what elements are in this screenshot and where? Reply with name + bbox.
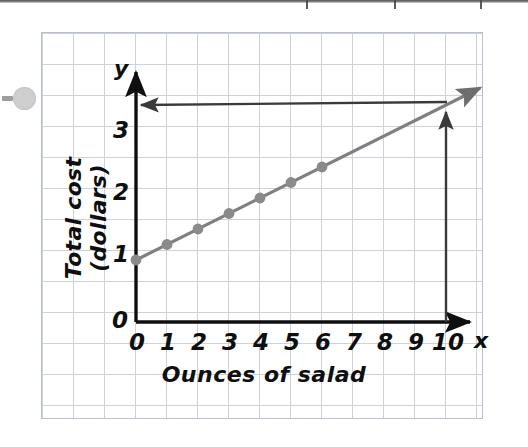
data-point [224,208,235,219]
horizontal-trace-arrow [141,102,447,105]
x-tick-label-0: 0 [129,331,145,354]
data-point [131,255,142,266]
x-tick-label-5: 5 [284,331,300,354]
x-axis-variable-label: x [474,330,488,352]
data-point [286,177,297,188]
x-tick-label-10: 10 [432,331,464,354]
x-axis-title: Ounces of salad [0,362,528,387]
x-tick-label-1: 1 [160,331,176,354]
x-tick-label-7: 7 [346,331,362,354]
origin-label: 0 [112,309,128,332]
cost-line [136,88,480,260]
x-tick-label-3: 3 [222,331,238,354]
x-tick-label-2: 2 [191,331,207,354]
y-axis-variable-label: y [114,58,128,80]
data-point [255,193,266,204]
x-tick-label-6: 6 [315,331,331,354]
y-tick-label-2: 2 [113,181,129,204]
x-tick-label-8: 8 [377,331,393,354]
data-point [193,224,204,235]
data-point [162,239,173,250]
worksheet-page: y x 0 1 2 3 0 1 2 3 4 5 6 7 8 9 10 Ounce… [0,0,528,447]
data-point [317,162,328,173]
y-axis-title: Total cost (dollars) [61,103,111,333]
y-tick-label-1: 1 [113,243,129,266]
y-tick-label-3: 3 [113,119,129,142]
x-tick-label-9: 9 [408,331,424,354]
x-tick-label-4: 4 [253,331,269,354]
